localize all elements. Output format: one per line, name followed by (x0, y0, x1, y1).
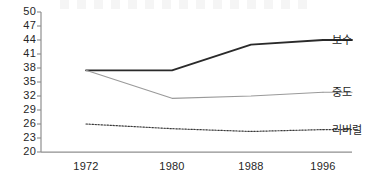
x-tick-label: 1972 (63, 160, 109, 172)
series-label-0: 보수 (332, 34, 352, 46)
x-axis-labels: 1972198019881996 (0, 0, 374, 188)
line-chart: 5047444138353229262320 1972198019881996 … (0, 0, 374, 188)
x-tick-label: 1988 (228, 160, 274, 172)
series-label-1: 중도 (332, 86, 352, 98)
x-tick-label: 1980 (149, 160, 195, 172)
series-label-2: 리버럴 (332, 124, 363, 136)
x-tick-label: 1996 (300, 160, 346, 172)
